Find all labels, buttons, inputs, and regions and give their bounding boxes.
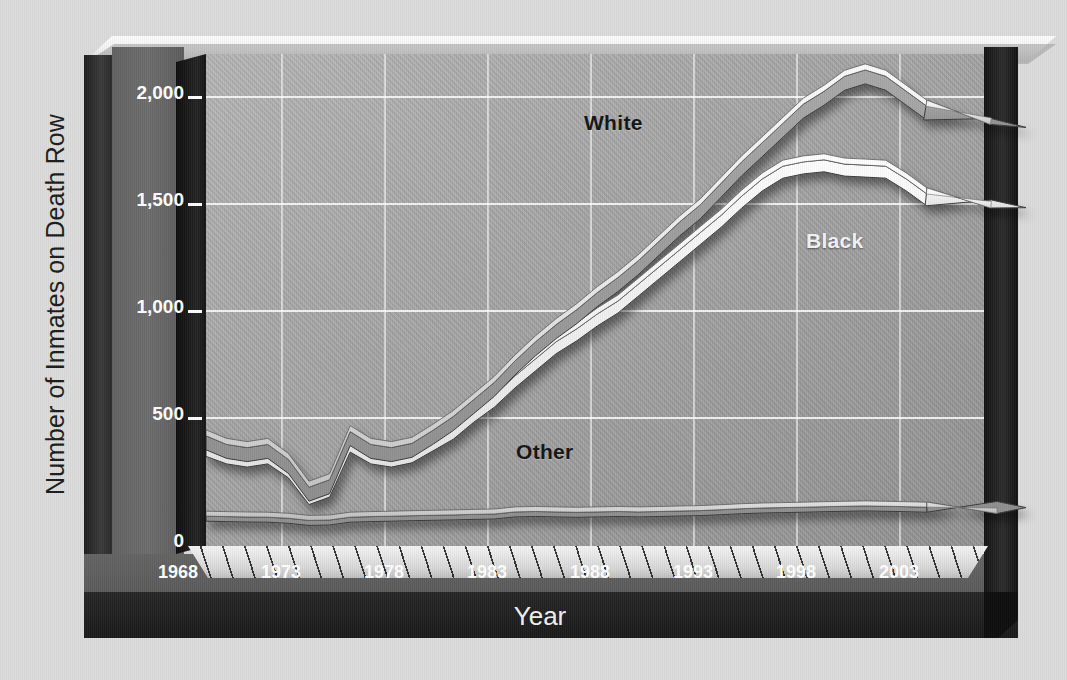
x-tick-label-2003: 2003 — [879, 562, 919, 583]
y-tick-label-0: 0 — [112, 530, 184, 552]
x-tick-label-1983: 1983 — [467, 562, 507, 583]
y-tick-label-500: 500 — [112, 403, 184, 425]
series-label-other: Other — [516, 440, 574, 464]
x-tick-label-1993: 1993 — [673, 562, 713, 583]
series-label-white: White — [584, 111, 643, 135]
chart-left-frame — [84, 55, 112, 620]
x-tick-label-1978: 1978 — [364, 562, 404, 583]
y-tick-mark-1000 — [188, 310, 202, 313]
x-axis-title: Year — [300, 601, 780, 632]
y-tick-mark-500 — [188, 417, 202, 420]
chart-right-frame — [984, 47, 1018, 620]
x-tick-label-1968: 1968 — [158, 562, 198, 583]
x-tick-label-1988: 1988 — [570, 562, 610, 583]
series-label-black: Black — [806, 229, 864, 253]
y-tick-label-1500: 1,500 — [112, 189, 184, 211]
x-tick-label-1973: 1973 — [261, 562, 301, 583]
y-tick-mark-2000 — [188, 96, 202, 99]
x-tick-label-1998: 1998 — [776, 562, 816, 583]
y-tick-label-2000: 2,000 — [112, 82, 184, 104]
plot-area: White Black Other — [206, 54, 984, 546]
y-axis-title: Number of Inmates on Death Row — [41, 45, 70, 565]
y-tick-label-1000: 1,000 — [112, 296, 184, 318]
y-tick-mark-1500 — [188, 203, 202, 206]
